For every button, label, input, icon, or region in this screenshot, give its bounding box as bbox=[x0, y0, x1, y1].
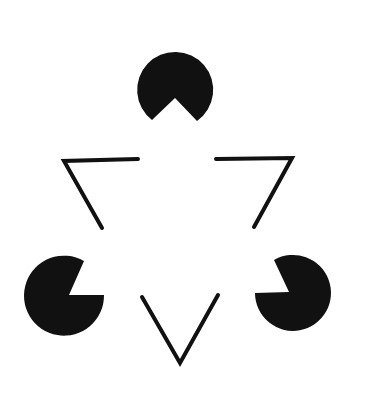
kanizsa-figure bbox=[0, 0, 365, 400]
